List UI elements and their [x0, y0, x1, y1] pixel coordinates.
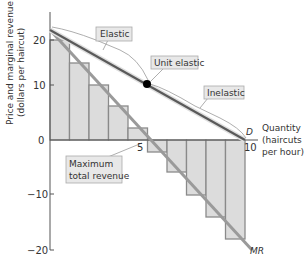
unit-elastic-point	[143, 80, 151, 88]
bar-3	[89, 85, 109, 140]
y-tick-20: 20	[33, 35, 46, 46]
max-revenue-label-line2: total revenue	[69, 171, 130, 181]
bar-9	[206, 140, 226, 217]
y-tick-10: 10	[33, 80, 46, 91]
y-axis-title-line1: Price and marginal revenue	[5, 0, 15, 125]
bar-1	[50, 40, 70, 140]
bar-2	[70, 63, 90, 140]
y-axis-title-line2: (dollars per haircut)	[16, 28, 26, 117]
bar-8	[187, 140, 207, 195]
x-tick-5: 5	[137, 142, 143, 153]
chart-container: Elastic Unit elastic Inelastic Maximum t…	[0, 0, 306, 260]
elastic-label: Elastic	[100, 29, 129, 39]
unit-elastic-label: Unit elastic	[154, 58, 204, 68]
y-tick-0: 0	[38, 135, 44, 146]
mr-label: MR	[250, 246, 264, 256]
x-axis-title-line2: (haircuts	[262, 135, 302, 145]
y-tick-neg10: −10	[27, 189, 48, 200]
x-tick-10: 10	[244, 142, 257, 153]
x-axis-title-line3: per hour)	[262, 147, 304, 157]
y-tick-neg20: −20	[27, 245, 48, 256]
max-revenue-label-line1: Maximum	[69, 159, 113, 169]
inelastic-label: Inelastic	[207, 88, 245, 98]
demand-label: D	[246, 127, 253, 137]
inelastic-leader	[200, 98, 208, 108]
x-axis-title-line1: Quantity	[262, 123, 302, 133]
unit-elastic-leader	[150, 68, 164, 82]
